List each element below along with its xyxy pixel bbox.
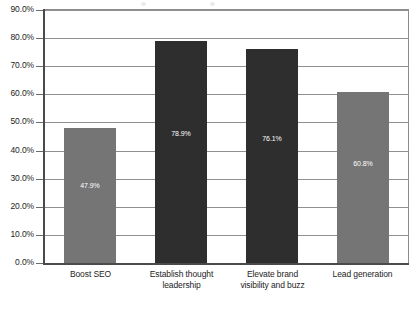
category-label-line: leadership — [136, 280, 227, 291]
y-axis-tick — [36, 10, 43, 11]
category-label-line: Elevate brand — [227, 269, 318, 280]
category-label: Boost SEO — [45, 269, 136, 280]
bar-value-label: 78.9% — [155, 130, 207, 137]
scan-artifact — [141, 2, 146, 6]
bar-value-label: 76.1% — [246, 135, 298, 142]
category-label-line: Lead generation — [317, 269, 408, 280]
y-axis-tick — [36, 235, 43, 236]
y-axis-tick — [36, 179, 43, 180]
y-axis-tick — [36, 151, 43, 152]
y-axis-tick-label: 30.0% — [0, 173, 34, 183]
category-label: Establish thoughtleadership — [136, 269, 227, 291]
y-axis-tick-label: 0.0% — [0, 257, 34, 267]
bar: 78.9% — [155, 41, 207, 263]
y-axis-tick — [36, 66, 43, 67]
y-axis-tick-label: 70.0% — [0, 60, 34, 70]
bars-layer: 47.9%78.9%76.1%60.8% — [45, 10, 408, 263]
bar: 47.9% — [64, 128, 116, 263]
y-axis-tick-label: 60.0% — [0, 88, 34, 98]
y-axis-tick-label: 10.0% — [0, 229, 34, 239]
bar-value-label: 60.8% — [337, 160, 389, 167]
scan-artifact — [210, 2, 215, 6]
category-label-line: Boost SEO — [45, 269, 136, 280]
y-axis-tick — [36, 207, 43, 208]
x-axis-line — [43, 263, 409, 265]
category-label: Elevate brandvisibility and buzz — [227, 269, 318, 291]
y-axis-tick — [36, 94, 43, 95]
category-label: Lead generation — [317, 269, 408, 280]
bar: 76.1% — [246, 49, 298, 263]
y-axis-tick-label: 20.0% — [0, 201, 34, 211]
bar-chart-figure: 90.0%80.0%70.0%60.0%50.0%40.0%30.0%20.0%… — [0, 0, 416, 309]
bar-value-label: 47.9% — [64, 182, 116, 189]
y-axis-tick-label: 50.0% — [0, 116, 34, 126]
category-label-line: visibility and buzz — [227, 280, 318, 291]
y-axis-tick — [36, 38, 43, 39]
y-axis-tick — [36, 122, 43, 123]
y-axis-tick-label: 40.0% — [0, 145, 34, 155]
y-axis-tick-label: 90.0% — [0, 4, 34, 14]
y-axis-tick — [36, 263, 43, 264]
category-label-line: Establish thought — [136, 269, 227, 280]
y-axis-tick-label: 80.0% — [0, 32, 34, 42]
bar: 60.8% — [337, 92, 389, 263]
